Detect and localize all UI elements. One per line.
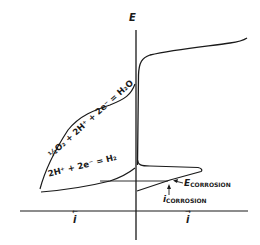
e-corrosion-arrowhead (173, 179, 178, 183)
i-corrosion-subscript: CORROSION (166, 197, 207, 204)
left-arrow-icon: ← (72, 209, 78, 216)
anodic-current-label: → i (186, 215, 189, 225)
cathodic-current-label: ← i (73, 215, 76, 225)
right-arrow-icon: → (185, 209, 191, 216)
e-axis-label: E (129, 13, 136, 23)
i-corrosion-arrowhead (167, 184, 171, 189)
polarization-diagram (0, 0, 260, 245)
e-corrosion-subscript: CORROSION (190, 181, 231, 188)
e-corrosion-label: ECORROSION (184, 179, 231, 188)
anodic-curve (138, 38, 248, 165)
i-corrosion-label: iCORROSION (163, 195, 207, 204)
